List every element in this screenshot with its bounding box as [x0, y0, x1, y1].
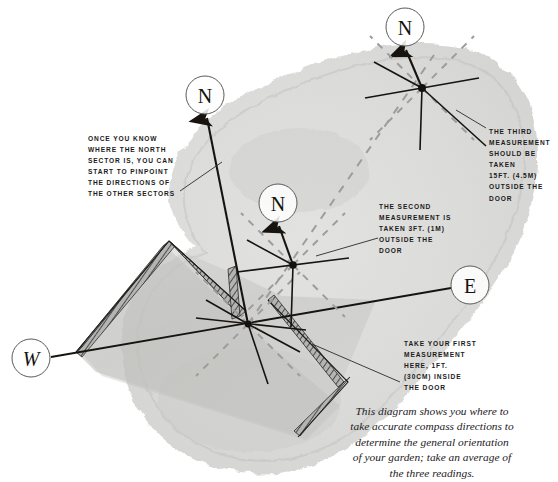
cardinal-marker-east[interactable]: E	[451, 266, 489, 304]
cardinal-label: N	[271, 193, 285, 215]
cardinal-marker-north-left[interactable]: N	[186, 76, 224, 114]
note-sectors: Once you know where the north sector is,…	[88, 133, 184, 200]
cardinal-label: N	[398, 17, 412, 39]
cardinal-marker-north-top[interactable]: N	[386, 8, 424, 46]
note-third-measurement: The third measurement should be taken 15…	[489, 126, 558, 204]
cardinal-label: N	[198, 85, 212, 107]
cardinal-label: E	[464, 275, 476, 297]
cardinal-label: W	[23, 348, 42, 370]
cardinal-marker-west[interactable]: W	[12, 339, 50, 377]
note-first-measurement: Take your first measurement here, 1ft. (…	[404, 338, 490, 393]
cardinal-marker-north-center[interactable]: N	[259, 184, 297, 222]
note-second-measurement: The second measurement is taken 3ft. (1m…	[379, 201, 465, 256]
diagram-canvas: N N N E W Once you know where the north …	[0, 0, 558, 482]
figure-caption: This diagram shows you where to take acc…	[342, 404, 522, 481]
